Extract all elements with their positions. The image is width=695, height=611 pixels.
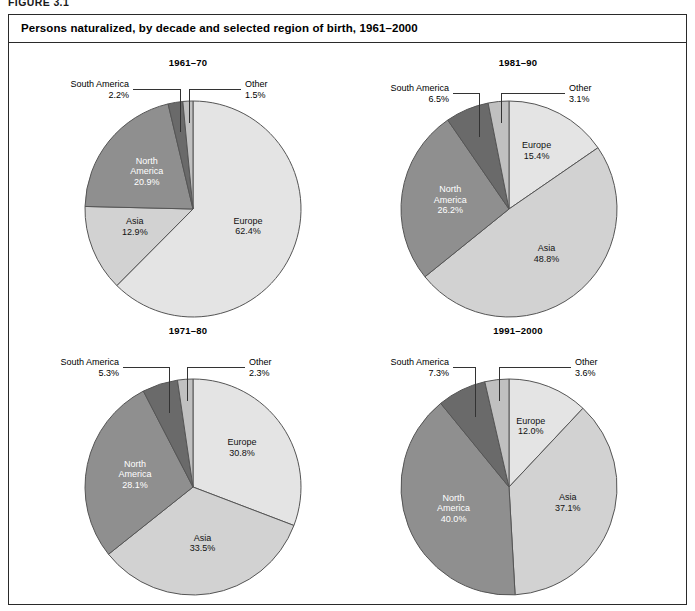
leader-line-south-america-vertical bbox=[180, 89, 181, 132]
leader-line-other-horizontal bbox=[187, 367, 245, 368]
leader-line-other-vertical bbox=[499, 367, 500, 401]
leader-line-other-vertical bbox=[501, 93, 502, 123]
leader-line-south-america-horizontal bbox=[453, 367, 475, 368]
leader-line-south-america-vertical bbox=[475, 367, 476, 417]
callout-south-america: South America 5.3% bbox=[27, 357, 119, 378]
pie-panel-1971-80: 1971–80Europe 30.8%Asia 33.5%North Ameri… bbox=[27, 325, 349, 597]
callout-south-america: South America 7.3% bbox=[357, 357, 449, 378]
leader-line-other-vertical bbox=[187, 367, 188, 401]
chart-title-bar: Persons naturalized, by decade and selec… bbox=[9, 15, 686, 43]
leader-line-other-horizontal bbox=[501, 93, 565, 94]
callout-south-america: South America 2.2% bbox=[37, 79, 129, 100]
leader-line-south-america-vertical bbox=[169, 367, 170, 413]
callout-south-america: South America 6.5% bbox=[357, 83, 449, 104]
figure-label: FIGURE 3.1 bbox=[8, 0, 69, 8]
chart-title: Persons naturalized, by decade and selec… bbox=[21, 22, 418, 34]
callout-other: Other 3.1% bbox=[569, 83, 649, 104]
leader-line-south-america-horizontal bbox=[133, 89, 180, 90]
leader-line-south-america-horizontal bbox=[453, 93, 479, 94]
leader-line-south-america-horizontal bbox=[123, 367, 169, 368]
leader-line-other-vertical bbox=[189, 89, 190, 123]
leader-line-south-america-vertical bbox=[479, 93, 480, 137]
figure-frame: Persons naturalized, by decade and selec… bbox=[8, 14, 687, 605]
callout-other: Other 2.3% bbox=[249, 357, 329, 378]
pie-panel-1961-70: 1961–70Europe 62.4%Asia 12.9%North Ameri… bbox=[27, 57, 349, 319]
callout-other: Other 3.6% bbox=[575, 357, 655, 378]
pie-panel-1981-90: 1981–90Europe 15.4%Asia 48.8%North Ameri… bbox=[357, 57, 679, 319]
leader-line-other-horizontal bbox=[499, 367, 571, 368]
pie-panel-1991-2000: 1991–2000Europe 12.0%Asia 37.1%North Ame… bbox=[357, 325, 679, 597]
leader-line-other-horizontal bbox=[189, 89, 241, 90]
callout-other: Other 1.5% bbox=[245, 79, 325, 100]
